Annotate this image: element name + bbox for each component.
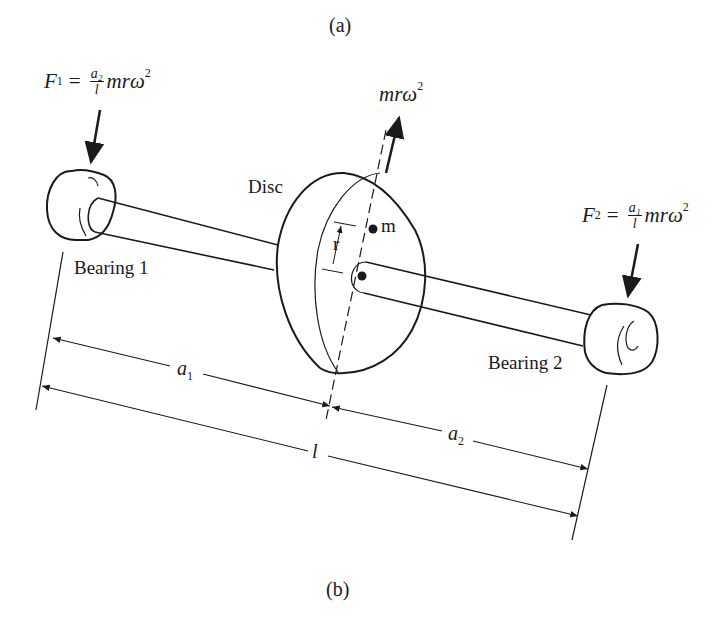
force-f2-arrow <box>628 244 638 296</box>
force-f1-arrow <box>91 110 100 162</box>
caption-b: (b) <box>326 578 349 601</box>
centrifugal-force-label: mrω2 <box>379 82 423 107</box>
bearing-2 <box>584 304 657 375</box>
bearing-2-label: Bearing 2 <box>488 352 562 374</box>
centrifugal-force-arrow <box>386 118 399 173</box>
disc-label: Disc <box>248 176 283 198</box>
mass-dot <box>369 225 378 234</box>
right-shaft <box>364 262 591 346</box>
disc <box>277 130 425 420</box>
mass-label: m <box>381 215 396 237</box>
force-f2-formula: F2 = a₁l mrω2 <box>582 200 689 231</box>
a2-label: a2 <box>448 422 464 449</box>
bearing-1-label: Bearing 1 <box>74 257 148 279</box>
extension-line-left <box>36 252 63 410</box>
extension-line-right <box>572 385 607 540</box>
caption-a: (a) <box>329 14 351 37</box>
a1-label: a1 <box>177 357 193 384</box>
force-f1-formula: F1 = a₂l mrω2 <box>44 66 151 97</box>
bearing-1 <box>47 170 116 240</box>
center-dot <box>358 272 367 281</box>
length-label: l <box>312 440 318 463</box>
radius-label: r <box>333 233 339 255</box>
dimension-l <box>42 386 578 516</box>
